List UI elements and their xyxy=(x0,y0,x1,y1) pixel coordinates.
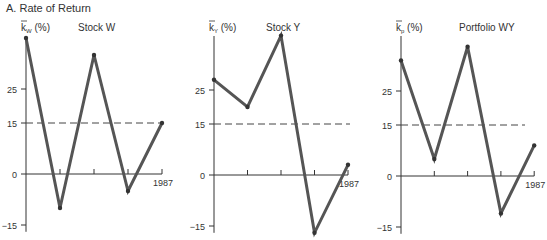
data-point xyxy=(346,163,350,167)
data-point xyxy=(160,121,164,125)
chart-title: Stock Y xyxy=(266,22,301,33)
data-point xyxy=(212,78,216,82)
data-point xyxy=(92,53,96,57)
y-tick-label: 0 xyxy=(12,170,17,180)
chart-panel-2: 25150−151987kY (%)Stock Y xyxy=(190,21,359,235)
chart-title: Portfolio WY xyxy=(459,22,515,33)
y-tick-label: −15 xyxy=(190,222,205,232)
data-point xyxy=(499,211,503,215)
y-axis-label: kY (%) xyxy=(209,22,236,34)
data-point xyxy=(312,231,316,235)
chart-panel-3: 25150−151987kp (%)Portfolio WY xyxy=(377,21,546,234)
y-tick-label: −15 xyxy=(2,221,17,231)
data-point xyxy=(432,157,436,161)
data-point xyxy=(399,58,403,62)
x-tick-label: 1987 xyxy=(153,178,173,188)
x-tick-label: 1987 xyxy=(339,179,359,189)
y-tick-label: 15 xyxy=(195,120,205,130)
data-point xyxy=(126,189,130,193)
x-tick-label: 1987 xyxy=(525,180,545,190)
y-tick-label: 25 xyxy=(382,87,392,97)
data-point xyxy=(532,143,536,147)
chart-title: Stock W xyxy=(78,22,116,33)
rate-of-return-charts: 25150−151987kW (%)Stock W25150−151987kY … xyxy=(0,0,547,240)
y-tick-label: 15 xyxy=(7,119,17,129)
data-point xyxy=(245,105,249,109)
data-point xyxy=(24,36,28,40)
return-line xyxy=(214,36,348,233)
data-point xyxy=(279,33,283,37)
data-point xyxy=(58,206,62,210)
y-axis-label: kW (%) xyxy=(21,22,50,34)
y-tick-label: 25 xyxy=(195,86,205,96)
y-tick-label: 0 xyxy=(387,172,392,182)
y-tick-label: 0 xyxy=(200,171,205,181)
y-tick-label: 15 xyxy=(382,121,392,131)
data-point xyxy=(465,45,469,49)
y-axis-label: kp (%) xyxy=(396,22,423,34)
y-tick-label: 25 xyxy=(7,85,17,95)
chart-panel-1: 25150−151987kW (%)Stock W xyxy=(2,21,173,232)
y-tick-label: −15 xyxy=(377,223,392,233)
return-line xyxy=(401,47,534,214)
